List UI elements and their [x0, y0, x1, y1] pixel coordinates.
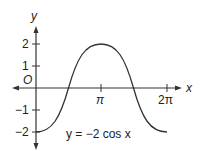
y-axis-label: y	[30, 9, 38, 23]
origin-label: O	[23, 73, 32, 87]
equation-label: y = −2 cos x	[66, 127, 131, 141]
x-axis-label: x	[185, 81, 193, 95]
x-axis-left-arrow-icon	[12, 86, 19, 91]
y-axis-up-arrow-icon	[34, 26, 39, 33]
tick-label-y2: 2	[22, 37, 29, 51]
tick-label-pi: π	[96, 93, 105, 107]
cosine-graph: y x O π 2π 2 1 −1 −2 y = −2 cos x	[0, 0, 211, 156]
x-axis-right-arrow-icon	[175, 86, 182, 91]
tick-label-y1: 1	[22, 59, 29, 73]
tick-label-ym1: −1	[15, 103, 29, 117]
tick-label-2pi: 2π	[158, 93, 173, 107]
y-axis-down-arrow-icon	[34, 143, 39, 150]
tick-label-ym2: −2	[15, 125, 29, 139]
